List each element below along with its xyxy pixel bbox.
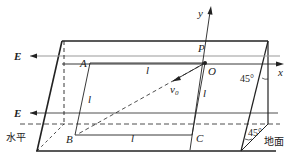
diagram-svg: E x E y O P v0 A B C l l l l 45° 45° 水平 … [0, 0, 295, 159]
label-x-axis: x [277, 66, 283, 78]
diagram-canvas: E x E y O P v0 A B C l l l l 45° 45° 水平 … [0, 0, 295, 159]
label-corner-a: A [79, 57, 87, 69]
label-y-axis: y [197, 7, 203, 19]
label-angle-upper: 45° [240, 73, 254, 84]
hidden-edge-base [37, 124, 64, 151]
label-origin: O [208, 65, 216, 77]
y-axis-arrow-icon [208, 6, 213, 15]
angle-arc-lower [245, 139, 252, 140]
label-field-lower: E [13, 107, 21, 119]
label-angle-lower: 45° [248, 127, 262, 138]
field-arrow-lower-icon [30, 111, 37, 116]
label-side-top: l [146, 64, 149, 76]
label-ground: 地面 [264, 135, 284, 147]
label-point-p: P [197, 42, 205, 54]
label-velocity: v0 [170, 83, 179, 97]
label-side-bottom: l [131, 132, 134, 144]
field-arrow-upper-icon [30, 54, 37, 59]
label-side-left: l [88, 93, 91, 105]
y-axis [190, 12, 210, 150]
label-corner-c: C [196, 132, 204, 144]
angle-arc-upper [262, 78, 268, 79]
label-corner-b: B [66, 133, 73, 145]
label-side-right: l [203, 87, 206, 99]
label-field-upper: E [13, 50, 21, 62]
slab-left-edge [37, 41, 62, 151]
label-horizontal: 水平 [6, 132, 26, 143]
